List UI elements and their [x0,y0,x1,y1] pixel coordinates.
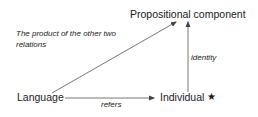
node-individual: Individual [160,92,204,103]
edge-label-identity: identity [191,54,216,62]
edge-label-product-line2: relations [16,41,46,49]
node-propositional-component: Propositional component [130,9,246,20]
star-icon: ★ [207,92,216,102]
edge-label-refers: refers [101,101,121,109]
edge-label-product-line1: The product of the other two [16,30,116,38]
node-language: Language [17,92,64,103]
